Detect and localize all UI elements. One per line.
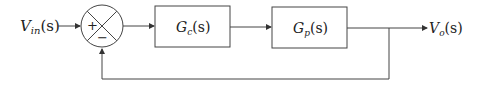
svg-text:Vin(s): Vin(s)	[20, 17, 60, 36]
summing-junction: + −	[81, 5, 123, 47]
svg-text:Gc(s): Gc(s)	[176, 19, 210, 37]
block-diagram: Vin(s) + − Gc(s) Gp(s) Vo(s)	[0, 0, 478, 85]
svg-text:Gp(s): Gp(s)	[293, 20, 328, 38]
minus-sign: −	[97, 30, 108, 45]
plant-block: Gp(s)	[272, 7, 347, 48]
input-label: Vin(s)	[20, 17, 60, 36]
controller-block: Gc(s)	[155, 6, 230, 47]
output-label: Vo(s)	[429, 20, 463, 38]
svg-text:Vo(s): Vo(s)	[429, 20, 463, 38]
